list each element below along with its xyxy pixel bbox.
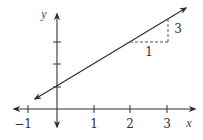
y-axis-label: y bbox=[40, 7, 47, 21]
x-tick-label-1: 1 bbox=[90, 117, 98, 131]
slope-rise-label: 3 bbox=[174, 22, 182, 36]
slope-run-label: 1 bbox=[145, 45, 153, 59]
coordinate-plane: −1 1 2 3 x y 1 3 bbox=[0, 0, 203, 140]
plotted-line bbox=[35, 8, 186, 99]
x-axis-label: x bbox=[185, 116, 192, 130]
x-tick-label-2: 2 bbox=[126, 117, 134, 131]
x-tick-label-3: 3 bbox=[163, 117, 171, 131]
x-tick-label-neg1: −1 bbox=[14, 117, 32, 131]
